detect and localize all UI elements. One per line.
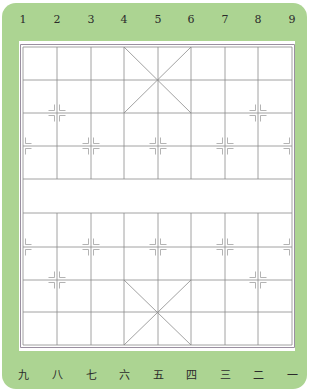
file-label-jiu: 九 xyxy=(13,367,33,385)
file-label-si: 四 xyxy=(181,367,201,385)
file-labels-bottom: 九 八 七 六 五 四 三 二 一 xyxy=(0,367,309,385)
board-grid xyxy=(0,0,309,392)
file-label-qi: 七 xyxy=(81,367,101,385)
file-label-wu: 五 xyxy=(148,367,168,385)
file-label-er: 二 xyxy=(248,367,268,385)
file-label-san: 三 xyxy=(215,367,235,385)
file-label-ba: 八 xyxy=(47,367,67,385)
file-label-liu: 六 xyxy=(114,367,134,385)
file-label-yi: 一 xyxy=(282,367,302,385)
